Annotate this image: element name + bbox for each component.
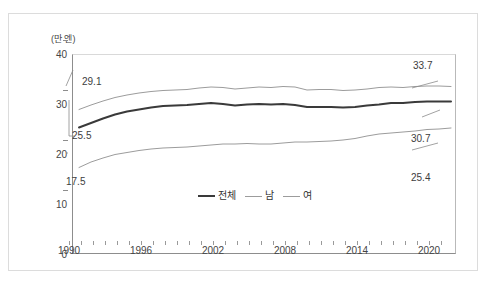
legend-label-여: 여: [303, 191, 312, 201]
x-tick-mark-1999: [177, 241, 178, 245]
plot-area: [72, 54, 456, 254]
x-tick-mark-1991: [81, 241, 82, 245]
x-tick-mark-2006: [261, 241, 262, 245]
x-tick-mark-2009: [297, 241, 298, 245]
x-tick-mark-1993: [105, 241, 106, 245]
x-tick-mark-2016: [381, 241, 382, 245]
legend-item-전체[interactable]: 전체: [198, 191, 236, 201]
line-여: [79, 128, 451, 168]
x-tick-mark-1998: [165, 241, 166, 245]
value-label-17-5: 17.5: [66, 176, 85, 187]
chart-legend: 전체남여: [198, 191, 317, 201]
figure-border: (만 엔) 010203040: [8, 13, 478, 271]
x-tick-mark-2003: [225, 241, 226, 245]
y-tick-mark-30: [63, 90, 68, 91]
value-label-29-1: 29.1: [82, 76, 101, 87]
chart-figure: (만 엔) 010203040 199019962002200820142020…: [0, 0, 486, 283]
x-tick-mark-2018: [405, 241, 406, 245]
x-tick-1996: 1996: [130, 245, 152, 256]
x-tick-2002: 2002: [202, 245, 224, 256]
x-tick-mark-2004: [237, 241, 238, 245]
y-tick-20: 20: [33, 149, 67, 160]
x-tick-mark-2015: [369, 241, 370, 245]
x-tick-mark-2010: [309, 241, 310, 245]
value-label-30-7: 30.7: [411, 133, 430, 144]
x-tick-mark-2005: [249, 241, 250, 245]
y-tick-mark-40: [63, 40, 68, 41]
value-label-25-4: 25.4: [411, 172, 430, 183]
x-tick-2008: 2008: [274, 245, 296, 256]
y-tick-mark-20: [63, 140, 68, 141]
y-tick-30: 30: [33, 99, 67, 110]
legend-item-여[interactable]: 여: [283, 191, 312, 201]
legend-swatch-전체: [198, 195, 215, 197]
legend-label-전체: 전체: [218, 191, 236, 201]
x-tick-mark-2021: [441, 241, 442, 245]
line-전체: [79, 102, 451, 128]
x-tick-mark-1994: [117, 241, 118, 245]
series-lines: [73, 55, 457, 255]
x-tick-2014: 2014: [346, 245, 368, 256]
x-tick-mark-1992: [93, 241, 94, 245]
x-tick-mark-2011: [321, 241, 322, 245]
y-tick-mark-10: [63, 190, 68, 191]
y-tick-10: 10: [33, 199, 67, 210]
legend-item-남[interactable]: 남: [245, 191, 274, 201]
legend-swatch-남: [245, 196, 262, 197]
x-tick-mark-2012: [333, 241, 334, 245]
line-남: [79, 86, 451, 110]
x-tick-mark-2000: [189, 241, 190, 245]
x-tick-mark-2017: [393, 241, 394, 245]
x-tick-1990: 1990: [58, 245, 80, 256]
legend-label-남: 남: [265, 191, 274, 201]
y-tick-40: 40: [33, 49, 67, 60]
value-label-33-7: 33.7: [413, 60, 432, 71]
x-tick-mark-1997: [153, 241, 154, 245]
x-tick-2020: 2020: [418, 245, 440, 256]
legend-swatch-여: [283, 196, 300, 197]
value-label-25-5: 25.5: [72, 130, 91, 141]
y-axis-tick-labels: 010203040: [29, 14, 67, 283]
